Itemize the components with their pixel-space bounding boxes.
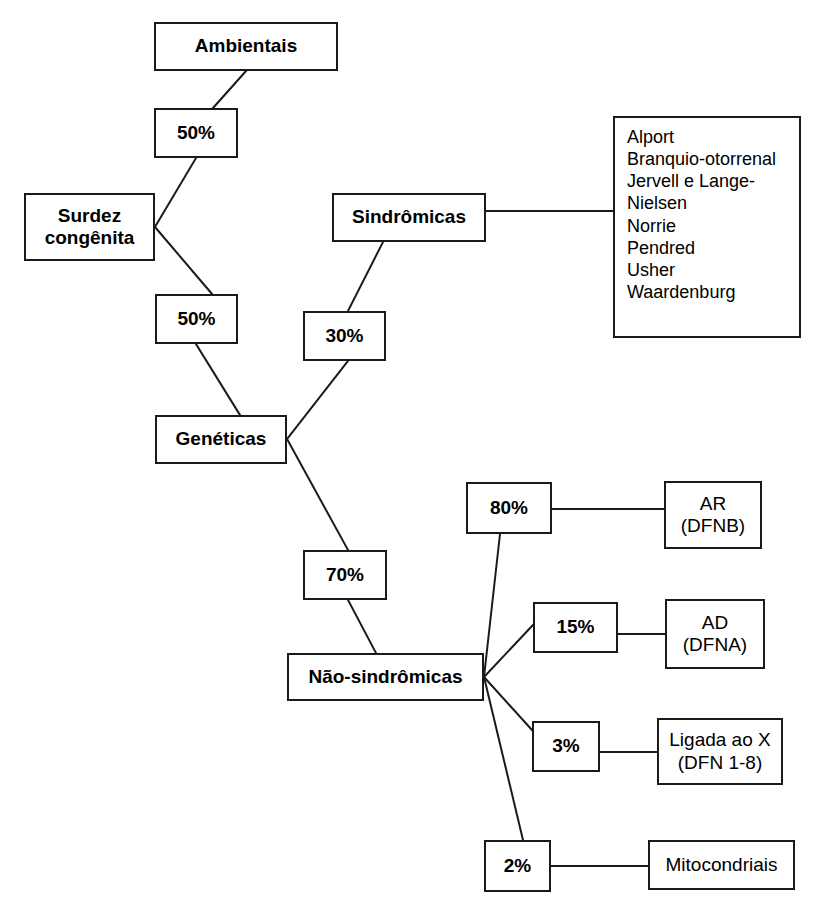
node-geneticas: Genéticas: [155, 415, 287, 464]
edge-geneticas-to-30: [287, 361, 348, 439]
edge-nao-sindromicas-to-15: [484, 625, 533, 677]
edge-50-to-surdez: [155, 158, 196, 227]
flowchart-surdez-congenita: Ambientais50%Surdez congênita50%Sindrômi…: [0, 0, 820, 911]
edge-surdez-to-50: [155, 227, 212, 294]
edge-70-to-nao-sindromicas: [348, 600, 376, 653]
node-percent-sindromicas-label: 30%: [321, 325, 367, 347]
node-percent-ad: 15%: [533, 602, 618, 653]
edge-50-to-geneticas: [196, 344, 240, 415]
node-percent-mitocondriais: 2%: [484, 840, 551, 892]
edge-geneticas-to-70: [287, 439, 348, 550]
node-syndrome-list: Alport Branquio-otorrenal Jervell e Lang…: [613, 116, 801, 338]
node-percent-ad-label: 15%: [552, 616, 598, 638]
node-percent-ar-label: 80%: [486, 497, 532, 519]
node-sindromicas-label: Sindrômicas: [348, 206, 470, 228]
node-percent-geneticas: 50%: [155, 294, 238, 344]
edge-nao-sindromicas-to-3: [484, 677, 532, 730]
node-percent-geneticas-label: 50%: [173, 308, 219, 330]
node-geneticas-label: Genéticas: [172, 428, 271, 450]
node-ambientais-label: Ambientais: [191, 35, 301, 57]
node-mitocondriais-label: Mitocondriais: [662, 854, 782, 876]
node-mitocondriais: Mitocondriais: [648, 840, 795, 890]
node-percent-sindromicas: 30%: [303, 311, 386, 361]
node-nao-sindromicas: Não-sindrômicas: [287, 653, 484, 701]
node-percent-ligada-ao-x: 3%: [532, 721, 600, 772]
node-syndrome-list-label: Alport Branquio-otorrenal Jervell e Lang…: [627, 126, 776, 303]
node-percent-ambientais: 50%: [154, 108, 238, 158]
node-percent-mitocondriais-label: 2%: [500, 855, 535, 877]
node-ar-dfnb-label: AR (DFNB): [677, 493, 749, 538]
node-percent-nao-sindromicas: 70%: [303, 550, 387, 600]
node-sindromicas: Sindrômicas: [332, 193, 486, 242]
edge-30-to-sindromicas: [348, 242, 383, 311]
node-ad-dfna: AD (DFNA): [665, 599, 765, 669]
node-ligada-ao-x: Ligada ao X (DFN 1-8): [657, 718, 783, 785]
node-ad-dfna-label: AD (DFNA): [679, 612, 751, 657]
node-percent-ligada-ao-x-label: 3%: [548, 735, 583, 757]
edge-nao-sindromicas-to-80: [484, 534, 500, 677]
node-surdez-congenita-label: Surdez congênita: [41, 205, 139, 250]
node-ar-dfnb: AR (DFNB): [664, 481, 762, 549]
node-ligada-ao-x-label: Ligada ao X (DFN 1-8): [665, 729, 774, 774]
edge-ambientais-to-50: [213, 71, 246, 108]
node-ambientais: Ambientais: [154, 22, 338, 71]
node-surdez-congenita: Surdez congênita: [24, 193, 155, 261]
node-nao-sindromicas-label: Não-sindrômicas: [304, 666, 466, 688]
node-percent-nao-sindromicas-label: 70%: [322, 564, 368, 586]
node-percent-ambientais-label: 50%: [173, 122, 219, 144]
node-percent-ar: 80%: [466, 482, 552, 534]
edge-nao-sindromicas-to-2: [484, 677, 523, 840]
